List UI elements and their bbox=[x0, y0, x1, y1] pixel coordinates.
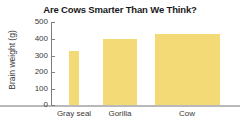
x-label-gorilla: Gorilla bbox=[90, 109, 150, 118]
y-tick-label-500: 500 bbox=[24, 18, 48, 26]
y-tick-300 bbox=[51, 56, 55, 57]
bar-chart: Are Cows Smarter Than We Think? Brain we… bbox=[0, 0, 240, 126]
bar-gray-seal bbox=[69, 51, 79, 105]
y-axis-label: Brain weight (g) bbox=[7, 12, 17, 108]
y-tick-label-100: 100 bbox=[24, 85, 48, 93]
y-tick-400 bbox=[51, 39, 55, 40]
y-tick-label-200: 200 bbox=[24, 68, 48, 76]
x-label-cow: Cow bbox=[157, 109, 217, 118]
y-tick-200 bbox=[51, 72, 55, 73]
chart-title: Are Cows Smarter Than We Think? bbox=[0, 4, 240, 15]
y-tick-label-400: 400 bbox=[24, 35, 48, 43]
y-tick-label-300: 300 bbox=[24, 52, 48, 60]
y-axis-line bbox=[51, 22, 52, 106]
bar-gorilla bbox=[103, 39, 137, 105]
y-tick-0 bbox=[51, 105, 55, 106]
bar-cow bbox=[155, 34, 220, 105]
y-tick-500 bbox=[51, 22, 55, 23]
y-tick-label-0: 0 bbox=[24, 101, 48, 109]
y-tick-100 bbox=[51, 89, 55, 90]
